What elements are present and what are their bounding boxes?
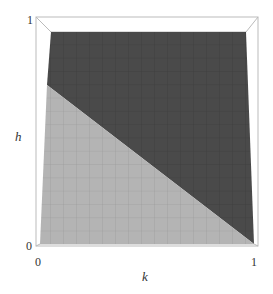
x-axis-label: k xyxy=(142,270,148,283)
y-tick-bottom: 0 xyxy=(26,240,32,252)
region-plot xyxy=(0,0,273,294)
x-tick-left: 0 xyxy=(35,256,41,268)
y-axis-label: h xyxy=(15,130,22,143)
y-tick-top: 1 xyxy=(27,14,33,26)
x-tick-right: 1 xyxy=(251,256,257,268)
